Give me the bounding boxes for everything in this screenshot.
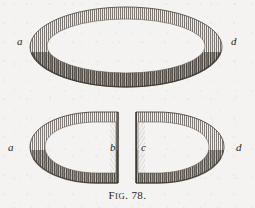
lower-right-half-shape	[0, 0, 255, 208]
figure-plate: a d a b c d FIG. 78.	[0, 0, 255, 208]
label-b-lower: b	[110, 142, 116, 153]
caption-suffix: . 78.	[125, 189, 146, 201]
label-a-lower: a	[8, 142, 14, 153]
label-a-upper: a	[17, 36, 23, 47]
caption-smallcaps: IG	[115, 191, 125, 201]
label-d-upper: d	[231, 36, 237, 47]
label-c-lower: c	[141, 142, 146, 153]
label-d-lower: d	[236, 142, 242, 153]
lower-right-cut-face-shading	[0, 0, 255, 208]
figure-caption: FIG. 78.	[0, 189, 255, 201]
figure-illustration	[0, 0, 255, 208]
